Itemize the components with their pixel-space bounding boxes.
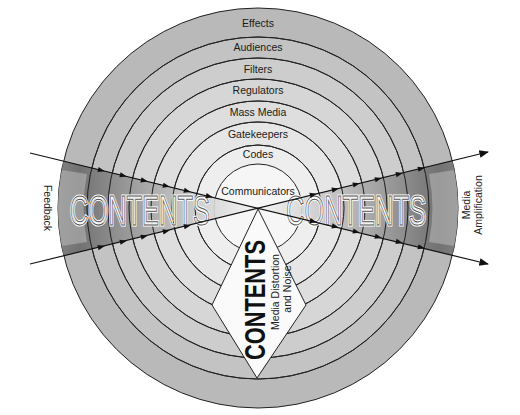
media-amplification-label-line1: Media	[460, 191, 472, 220]
svg-text:CONTENTS: CONTENTS	[286, 187, 426, 234]
label-audiences: Audiences	[233, 41, 282, 53]
label-mass-media: Mass Media	[230, 106, 287, 118]
label-effects: Effects	[242, 17, 274, 29]
bottom-sub-label-line1: Media Distortion	[269, 254, 281, 330]
hub-model-diagram: Effects Audiences Filters Regulators Mas…	[0, 0, 520, 415]
label-filters: Filters	[244, 63, 273, 75]
label-codes: Codes	[243, 148, 273, 160]
label-communicators: Communicators	[221, 185, 295, 197]
bottom-sub-label-line2: and Noise	[281, 265, 293, 312]
svg-text:CONTENTS: CONTENTS	[70, 187, 210, 234]
label-regulators: Regulators	[233, 84, 284, 96]
bottom-contents-text: CONTENTS	[238, 240, 271, 360]
feedback-label: Feedback	[42, 185, 54, 232]
left-contents-text: CONTENTS CONTENTS	[70, 187, 210, 234]
right-contents-text: CONTENTS CONTENTS	[286, 187, 426, 234]
label-gatekeepers: Gatekeepers	[228, 128, 288, 140]
media-amplification-label-line2: Amplification	[472, 175, 484, 235]
